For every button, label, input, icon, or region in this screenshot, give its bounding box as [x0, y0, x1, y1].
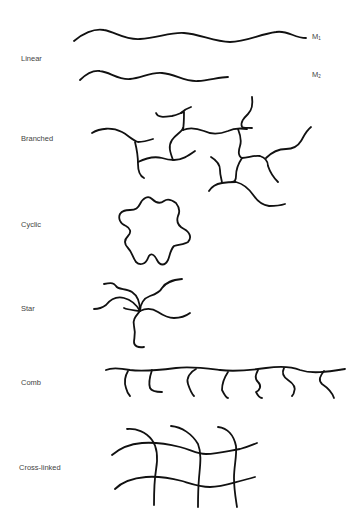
branch-chain: [238, 129, 278, 182]
comb-tooth: [283, 368, 295, 396]
branch-chain: [156, 112, 184, 130]
star-arm: [133, 311, 144, 347]
star-arm: [140, 279, 182, 311]
crosslink-vertical-chain: [171, 426, 200, 507]
star-arm: [94, 297, 140, 311]
comb-tooth: [125, 371, 130, 396]
branch-chain: [170, 128, 183, 160]
linear-structure: [74, 30, 306, 81]
comb-tooth: [320, 371, 334, 398]
crosslink-vertical-chain: [218, 427, 237, 507]
branch-chain: [232, 158, 242, 182]
comb-structure: [106, 367, 345, 398]
linear-chain-m1: [74, 30, 306, 42]
comb-backbone: [106, 367, 345, 373]
comb-tooth: [187, 369, 196, 396]
branch-chain: [209, 182, 285, 206]
polymer-diagram: [0, 0, 360, 530]
crosslink-vertical-chain: [127, 429, 157, 505]
cyclic-structure: [119, 197, 190, 264]
branch-chain: [266, 127, 311, 158]
comb-tooth: [149, 370, 162, 392]
branch-chain: [138, 151, 195, 162]
branched-structure: [92, 97, 311, 206]
star-structure: [94, 279, 190, 347]
branch-chain: [211, 157, 222, 183]
linear-chain-m2: [80, 71, 228, 81]
branch-chain: [92, 129, 153, 142]
comb-tooth: [222, 372, 228, 398]
cross-linked-structure: [112, 426, 257, 507]
star-arm: [140, 309, 190, 318]
branch-chain: [181, 107, 191, 113]
comb-tooth: [256, 370, 262, 398]
branch-chain: [241, 97, 252, 128]
cyclic-ring: [119, 197, 190, 264]
